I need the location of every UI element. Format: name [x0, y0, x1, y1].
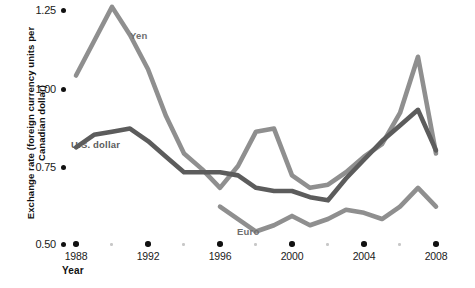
x-tick-label-1988: 1988	[53, 250, 99, 262]
x-tick-dot-1992	[145, 241, 151, 247]
x-axis-title: Year	[62, 265, 84, 276]
x-tick-dot-2008	[433, 241, 439, 247]
x-tick-label-1996: 1996	[197, 250, 243, 262]
x-tick-label-2000: 2000	[269, 250, 315, 262]
series-label-yen: Yen	[130, 30, 148, 41]
x-tick-label-2008: 2008	[413, 250, 459, 262]
exchange-rate-line-chart: Exchange rate (foreign currency units pe…	[0, 0, 475, 288]
x-tick-dot-2006	[398, 243, 401, 246]
series-label-us-dollar: U.S. dollar	[71, 139, 120, 150]
x-tick-dot-2004	[361, 241, 367, 247]
series-label-euro: Euro	[237, 226, 259, 237]
series-line-euro	[220, 188, 436, 232]
x-tick-label-2004: 2004	[341, 250, 387, 262]
x-tick-dot-1998	[254, 243, 257, 246]
x-tick-dot-1994	[182, 243, 185, 246]
x-tick-dot-1990	[110, 243, 113, 246]
x-tick-label-1992: 1992	[125, 250, 171, 262]
x-tick-dot-1996	[217, 241, 223, 247]
x-tick-dot-2002	[326, 243, 329, 246]
x-tick-dot-1988	[73, 241, 79, 247]
x-tick-dot-2000	[289, 241, 295, 247]
series-line-us-dollar	[76, 110, 436, 200]
